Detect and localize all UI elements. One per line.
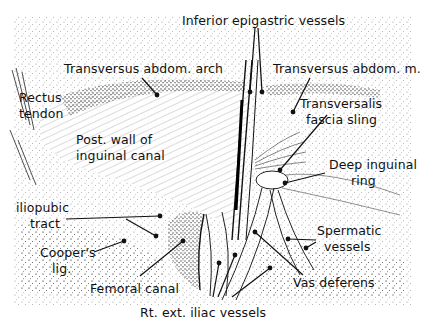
- leader-dot-coopers-lig: [122, 239, 127, 244]
- label-deep-inguinal-ring-line2: ring: [351, 174, 376, 188]
- label-vas-deferens: Vas deferens: [293, 276, 375, 290]
- leader-dot-vas-deferens: [253, 230, 258, 235]
- label-inferior-epigastric-vessels: Inferior epigastric vessels: [182, 14, 345, 28]
- leader-dot-inferior-epigastric-vessels: [260, 90, 265, 95]
- leader-dot-rt-ext-iliac-vessels: [217, 261, 222, 266]
- leader-dot-inferior-epigastric-vessels: [248, 90, 253, 95]
- leader-dot-iliopubic-tract: [154, 234, 159, 239]
- label-femoral-canal: Femoral canal: [90, 282, 179, 296]
- leader-dot-iliopubic-tract: [158, 214, 163, 219]
- leader-dot-deep-inguinal-ring: [283, 181, 288, 186]
- label-iliopubic-tract-line1: iliopubic: [16, 201, 69, 215]
- label-rectus-tendon-line2: tendon: [19, 107, 64, 121]
- leader-dot-transversalis-fascia-sling: [278, 168, 283, 173]
- leader-dot-spermatic-vessels: [304, 246, 309, 251]
- leader-dot-spermatic-vessels: [286, 237, 291, 242]
- label-transversalis-fascia-sling-line2: fascia sling: [306, 113, 377, 127]
- leader-dot-rt-ext-iliac-vessels: [268, 266, 273, 271]
- label-coopers-lig-line1: Cooper's: [40, 246, 96, 260]
- leader-dot-femoral-canal: [181, 239, 186, 244]
- label-post-wall-line2: inguinal canal: [76, 149, 165, 163]
- label-transversus-abdom-m: Transversus abdom. m.: [273, 62, 421, 76]
- leader-dot-transversus-abdom-m: [291, 110, 296, 115]
- label-deep-inguinal-ring-line1: Deep inguinal: [329, 158, 417, 172]
- label-post-wall-line1: Post. wall of: [76, 133, 152, 147]
- leader-dot-transversus-abdom-arch: [155, 93, 160, 98]
- label-transversalis-fascia-sling-line1: Transversalis: [300, 97, 382, 111]
- label-spermatic-vessels-line1: Spermatic: [317, 224, 381, 238]
- label-rectus-tendon-line1: Rectus: [19, 91, 62, 105]
- label-rt-ext-iliac-vessels: Rt. ext. iliac vessels: [140, 306, 266, 320]
- label-iliopubic-tract-line2: tract: [30, 217, 60, 231]
- label-transversus-abdom-arch: Transversus abdom. arch: [64, 62, 223, 76]
- label-coopers-lig-line2: lig.: [52, 262, 71, 276]
- label-spermatic-vessels-line2: vessels: [324, 240, 371, 254]
- leader-dot-rt-ext-iliac-vessels: [233, 253, 238, 258]
